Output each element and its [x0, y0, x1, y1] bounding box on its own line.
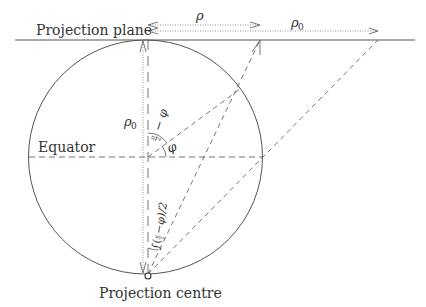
projection-plane-label: Projection plane: [36, 22, 152, 38]
rho0-left-subscript: 0: [131, 121, 137, 131]
phi-label: φ: [165, 138, 180, 156]
diagram-canvas: Projection plane Equator Projection cent…: [0, 0, 426, 307]
angle-upper-label: π 2 − φ: [147, 107, 171, 144]
rho-label: ρ: [195, 8, 204, 23]
angle-lower-label: ∫ ( π 2 −φ)/2: [149, 201, 171, 251]
rho0-top-subscript: 0: [298, 22, 304, 32]
projection-centre-label: Projection centre: [99, 285, 222, 301]
projection-centre-marker: [145, 273, 151, 279]
arrowhead-up-icon: [252, 40, 260, 55]
svg-text:−φ)/2: −φ)/2: [152, 201, 170, 235]
svg-text:− φ: − φ: [150, 107, 170, 133]
svg-text:2: 2: [159, 236, 165, 240]
angle-arc-phi: [162, 146, 166, 157]
equator-label: Equator: [38, 139, 96, 155]
